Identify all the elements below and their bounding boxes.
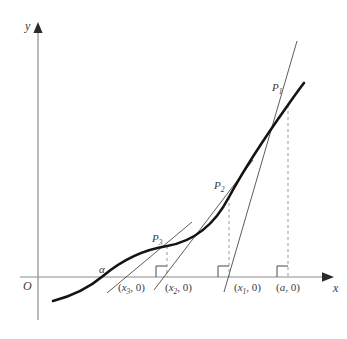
point-label-p2-sub: 2 — [221, 185, 225, 194]
x-axis-label: x — [333, 282, 338, 294]
point-label-p3-base: P — [152, 232, 159, 244]
tick-label-x1-close: , 0) — [246, 281, 261, 293]
point-label-p1: P1 — [272, 82, 282, 96]
point-label-p3: P3 — [152, 233, 162, 247]
tick-label-x1: (x1, 0) — [234, 282, 261, 296]
point-label-p3-sub: 3 — [159, 238, 163, 247]
point-label-p1-base: P — [272, 81, 279, 93]
origin-label: O — [23, 280, 32, 292]
newton-method-figure: y x O α P1 P2 P3 (x3, 0) (x2, 0) (x1, 0)… — [0, 0, 347, 339]
function-curve — [53, 83, 304, 301]
point-label-p2-base: P — [214, 179, 221, 191]
point-label-p2: P2 — [214, 180, 224, 194]
root-alpha-label: α — [99, 264, 105, 275]
tick-label-x3: (x3, 0) — [118, 282, 145, 296]
tangent-line-p1 — [224, 41, 297, 292]
tick-label-x3-close: , 0) — [130, 281, 145, 293]
right-angle-mark-p2 — [218, 266, 229, 277]
tick-label-a-close: , 0) — [285, 281, 300, 293]
tick-label-a: (a, 0) — [276, 282, 300, 293]
y-axis-arrow-icon — [33, 22, 42, 33]
tick-label-x2-close: , 0) — [177, 281, 192, 293]
tick-label-x2: (x2, 0) — [165, 282, 192, 296]
right-angle-mark-a — [277, 266, 288, 277]
y-axis-label: y — [25, 20, 30, 32]
point-label-p1-sub: 1 — [279, 87, 283, 96]
